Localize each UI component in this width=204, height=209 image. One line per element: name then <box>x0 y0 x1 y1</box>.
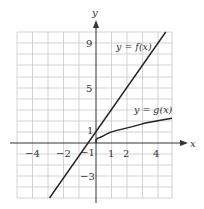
function-graph: y x −4 −2 1 2 4 9 5 1 −1 −3 y = f(x) y =… <box>0 0 204 209</box>
series-g-curve <box>96 118 172 143</box>
x-axis-label: x <box>190 138 196 149</box>
x-axis-arrow-icon <box>180 140 188 146</box>
x-tick-label: 2 <box>123 148 129 159</box>
series-f-label: y = f(x) <box>115 41 152 52</box>
y-tick-label: 9 <box>86 38 92 49</box>
x-tick-label: −2 <box>56 148 71 159</box>
y-tick-label: 5 <box>86 83 92 94</box>
x-tick-label: 1 <box>108 148 114 159</box>
y-axis-arrow-icon <box>93 20 99 28</box>
y-tick-label: −3 <box>80 171 95 182</box>
series-f-line <box>50 32 166 198</box>
y-tick-label: 1 <box>87 125 93 136</box>
x-tick-label: −4 <box>25 148 40 159</box>
series-g-label: y = g(x) <box>133 104 173 115</box>
x-tick-label: 4 <box>153 148 159 159</box>
y-tick-label: −1 <box>80 147 95 158</box>
y-axis-label: y <box>91 7 98 18</box>
